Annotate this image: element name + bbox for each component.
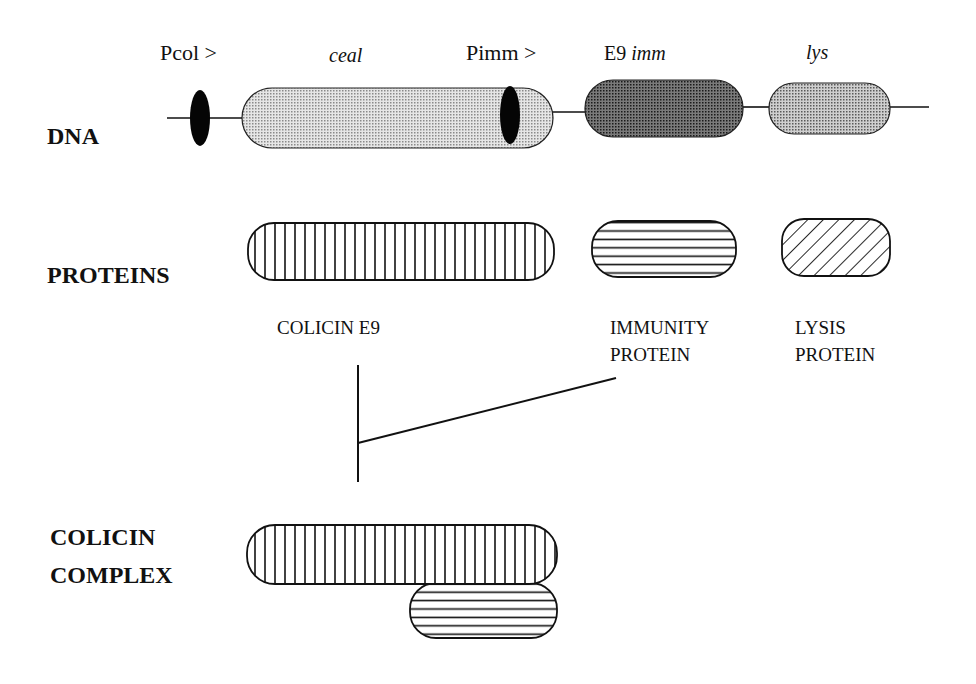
label-lys: lys — [806, 41, 828, 64]
complex-connector — [358, 365, 616, 482]
label-e9-imm: E9 imm — [604, 42, 666, 65]
pcol-promoter — [190, 90, 210, 146]
imm-gene — [585, 80, 743, 137]
label-lysis-line1: LYSIS — [795, 315, 846, 341]
label-lysis-line2: PROTEIN — [795, 342, 875, 368]
proteins-track — [248, 219, 890, 280]
immunity-protein — [592, 221, 736, 277]
row-label-proteins: PROTEINS — [47, 261, 170, 289]
dna-track — [167, 80, 929, 148]
label-ceal: ceal — [329, 44, 362, 67]
complex-immunity-protein — [410, 583, 557, 638]
label-pimm: Pimm > — [466, 40, 536, 66]
colicin-complex — [247, 525, 557, 638]
pimm-promoter — [500, 86, 520, 144]
lysis-protein — [782, 219, 890, 276]
complex-colicin-protein — [247, 525, 557, 584]
label-e9: E9 — [604, 42, 626, 64]
label-immunity-line2: PROTEIN — [610, 342, 690, 368]
connector-diagonal — [358, 378, 616, 443]
row-label-dna: DNA — [47, 122, 99, 150]
colicin-e9-protein — [248, 223, 554, 280]
label-colicin-e9: COLICIN E9 — [277, 315, 380, 341]
label-imm: imm — [631, 42, 665, 64]
row-label-complex-line1: COLICIN — [50, 523, 155, 551]
row-label-complex-line2: COMPLEX — [50, 561, 173, 589]
lys-gene — [769, 83, 890, 134]
label-immunity-line1: IMMUNITY — [610, 315, 709, 341]
label-pcol: Pcol > — [160, 40, 217, 66]
